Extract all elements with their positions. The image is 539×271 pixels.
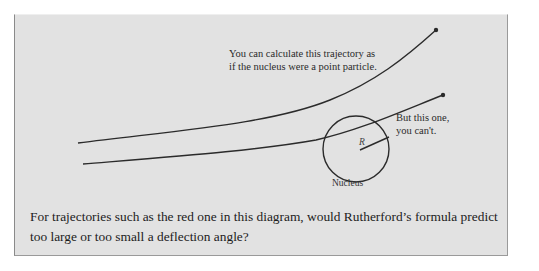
nucleus-circle	[323, 116, 389, 182]
question-text: For trajectories such as the red one in …	[30, 207, 500, 247]
upper-trajectory-endpoint	[434, 28, 438, 32]
lower-trajectory-caption-line1: But this one,	[396, 111, 449, 124]
upper-trajectory-caption-line2: if the nucleus were a point particle.	[229, 60, 377, 73]
upper-trajectory-caption-line1: You can calculate this trajectory as	[229, 47, 377, 60]
upper-trajectory-caption: You can calculate this trajectory as if …	[229, 47, 377, 73]
nucleus-label: Nucleus	[332, 177, 363, 190]
lower-trajectory-caption-line2: you can't.	[396, 124, 449, 137]
lower-trajectory-caption: But this one, you can't.	[396, 111, 449, 137]
radius-label: R	[359, 136, 365, 149]
lower-trajectory-endpoint	[441, 93, 445, 97]
